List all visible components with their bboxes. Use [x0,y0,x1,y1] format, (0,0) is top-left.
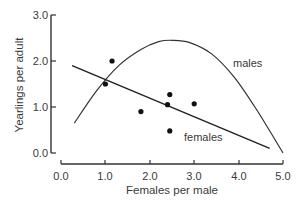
females-regression-line [72,66,270,149]
y-axis-title: Yearlings per adult [13,37,25,133]
x-tick-label: 3.0 [186,170,201,182]
chart: 3.0 2.0 1.0 0.0 Yearlings per adult 0.0 … [0,0,306,209]
x-axis: 0.0 1.0 2.0 3.0 4.0 5.0 Females per male [53,160,290,196]
x-tick-label: 2.0 [142,170,157,182]
males-label: males [233,57,263,69]
y-tick-label: 2.0 [33,55,48,67]
y-tick-label: 3.0 [33,9,48,21]
x-axis-title: Females per male [126,184,218,196]
data-point [138,109,143,114]
data-point [109,58,114,63]
data-points [103,58,197,133]
y-axis: 3.0 2.0 1.0 0.0 Yearlings per adult [13,9,56,159]
x-tick-label: 1.0 [97,170,112,182]
data-point [103,81,108,86]
data-point [167,92,172,97]
x-tick-label: 4.0 [231,170,246,182]
y-tick-label: 1.0 [33,101,48,113]
data-point [192,101,197,106]
females-label: females [184,131,223,143]
x-tick-label: 5.0 [275,170,290,182]
data-point [167,128,172,133]
y-tick-label: 0.0 [33,147,48,159]
x-tick-label: 0.0 [53,170,68,182]
data-point [165,102,170,107]
